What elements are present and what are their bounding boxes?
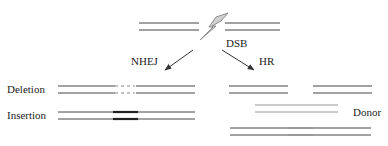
lightning-bolt-icon	[200, 13, 228, 40]
donor-dna	[255, 105, 338, 112]
donor-label: Donor	[353, 107, 381, 118]
hr-label: HR	[259, 56, 274, 67]
nhej-label: NHEJ	[131, 56, 158, 67]
dsb-label: DSB	[226, 38, 247, 49]
arrow-down-left-icon	[165, 50, 193, 70]
insertion-dna	[58, 112, 195, 119]
hr-broken-dna	[229, 86, 372, 93]
insertion-label: Insertion	[7, 110, 46, 121]
deletion-dna	[58, 86, 195, 93]
dsb-repair-diagram	[0, 0, 388, 146]
deletion-label: Deletion	[7, 84, 45, 95]
arrow-down-right-icon	[222, 50, 254, 70]
hr-repaired-dna	[230, 128, 371, 135]
